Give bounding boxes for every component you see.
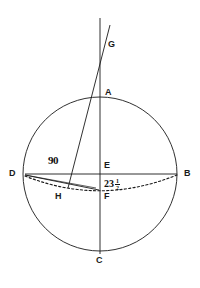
vertex-label-h: H (55, 192, 62, 201)
vertex-label-d: D (9, 169, 16, 178)
angle-label-90: 90 (48, 155, 58, 166)
fraction-denominator: 2 (115, 185, 120, 191)
fraction-numerator: 1 (115, 178, 120, 185)
vertex-label-b: B (184, 169, 191, 178)
angle-label-23-half: 2312 (104, 178, 120, 191)
angle-23-fraction: 12 (115, 178, 120, 191)
vertex-label-g: G (108, 40, 115, 49)
vertex-label-f: F (104, 192, 110, 201)
geometry-figure: G A E B D F H C 90 2312 (0, 0, 200, 288)
vertex-label-e: E (104, 161, 110, 170)
vertex-label-a: A (105, 88, 112, 97)
chord-d-to-h (25, 175, 96, 188)
dashed-tilted-equator-arc (25, 175, 177, 191)
vertex-label-c: C (96, 256, 103, 265)
figure-canvas (0, 0, 200, 288)
angle-23-whole: 23 (104, 178, 114, 189)
